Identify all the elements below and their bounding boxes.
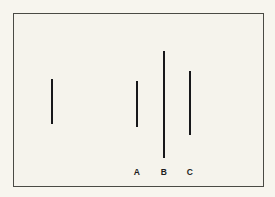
stimulus-line-standard [51,79,54,124]
line-label-c: C [184,167,196,177]
stimulus-line-b [163,51,166,158]
figure-frame: A B C [13,13,264,187]
line-label-a: A [131,167,143,177]
figure-canvas: A B C [0,0,275,197]
line-label-b: B [158,167,170,177]
stimulus-line-a [136,81,139,127]
stimulus-line-c [189,71,192,135]
